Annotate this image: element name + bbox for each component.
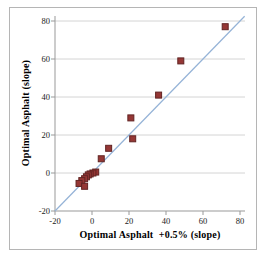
data-point-marker: [222, 24, 228, 30]
y-tick-label-80: 80: [26, 17, 50, 26]
x-tick-label--20: -20: [49, 217, 60, 226]
data-point-marker: [82, 183, 88, 189]
y-tick-label--20: -20: [26, 207, 50, 216]
data-point-marker: [156, 92, 162, 98]
data-point-marker: [128, 115, 134, 121]
data-point-marker: [178, 58, 184, 64]
x-tick-label-0: 0: [90, 217, 94, 226]
x-axis-title: Optimal Asphalt +0.5% (slope): [55, 229, 245, 240]
y-axis-title: Optimal Asphalt (slope): [20, 32, 34, 194]
chart-image: -20020406080 -20020406080 Optimal Asphal…: [0, 0, 269, 262]
x-tick-label-20: 20: [125, 217, 134, 226]
x-tick-label-80: 80: [236, 217, 245, 226]
data-point-marker: [98, 156, 104, 162]
x-tick-label-40: 40: [162, 217, 171, 226]
data-point-marker: [130, 136, 136, 142]
chart-frame: -20020406080 -20020406080 Optimal Asphal…: [9, 7, 257, 250]
data-point-marker: [106, 145, 112, 151]
x-tick-label-60: 60: [199, 217, 208, 226]
